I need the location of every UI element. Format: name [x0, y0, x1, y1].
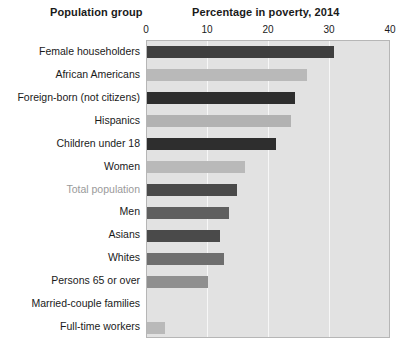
- bar-row: [147, 64, 389, 87]
- bar-row: [147, 133, 389, 156]
- bar: [147, 115, 291, 127]
- bar-row: [147, 224, 389, 247]
- category-label: Men: [0, 200, 140, 223]
- chart-title: Percentage in poverty, 2014: [192, 6, 339, 18]
- bar-row: [147, 87, 389, 110]
- bar: [147, 253, 224, 265]
- bar-row: [147, 270, 389, 293]
- bar: [147, 184, 237, 196]
- x-tick-label-40: 40: [384, 24, 395, 35]
- bar: [147, 69, 307, 81]
- bar-rows: [147, 41, 389, 337]
- bar-row: [147, 316, 389, 338]
- x-axis-tick-labels: 010203040: [0, 24, 404, 38]
- plot-area: [146, 40, 390, 338]
- bar: [147, 161, 245, 173]
- column-header-population-group: Population group: [50, 6, 143, 18]
- bar-row: [147, 293, 389, 316]
- bar: [147, 138, 276, 150]
- category-label: Whites: [0, 246, 140, 269]
- bar: [147, 92, 295, 104]
- bar: [147, 276, 208, 288]
- bar: [147, 46, 334, 58]
- category-label: Total population: [0, 178, 140, 201]
- category-label: Hispanics: [0, 109, 140, 132]
- bar-row: [147, 179, 389, 202]
- poverty-bar-chart: Population group Percentage in poverty, …: [0, 0, 404, 346]
- category-label: Married-couple families: [0, 292, 140, 315]
- bar-row: [147, 110, 389, 133]
- x-tick-label-0: 0: [143, 24, 149, 35]
- bar-row: [147, 201, 389, 224]
- bar: [147, 322, 165, 334]
- category-label-column: Female householdersAfrican AmericansFore…: [0, 40, 140, 338]
- bar-row: [147, 41, 389, 64]
- x-tick-label-20: 20: [262, 24, 273, 35]
- bar-row: [147, 247, 389, 270]
- x-tick-label-30: 30: [323, 24, 334, 35]
- category-label: Full-time workers: [0, 315, 140, 338]
- x-tick-label-10: 10: [201, 24, 212, 35]
- category-label: Children under 18: [0, 132, 140, 155]
- bar: [147, 230, 220, 242]
- category-label: Foreign-born (not citizens): [0, 86, 140, 109]
- category-label: Women: [0, 155, 140, 178]
- category-label: Persons 65 or over: [0, 269, 140, 292]
- category-label: Asians: [0, 223, 140, 246]
- bar: [147, 207, 229, 219]
- bar-row: [147, 156, 389, 179]
- category-label: Female householders: [0, 40, 140, 63]
- category-label: African Americans: [0, 63, 140, 86]
